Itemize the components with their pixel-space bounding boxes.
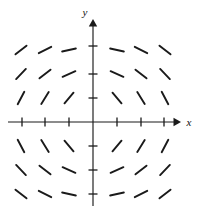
slope-segment (113, 93, 122, 104)
slope-segment (111, 167, 124, 173)
slope-segment (62, 49, 76, 52)
y-axis-label: y (82, 6, 88, 18)
slope-segment (18, 140, 25, 152)
slope-segment (135, 191, 147, 197)
slope-segment (39, 191, 51, 197)
slope-segment (135, 166, 146, 175)
slope-segment (137, 92, 144, 104)
slope-segment (137, 140, 144, 152)
slope-segment (65, 141, 74, 152)
slope-segment (63, 167, 76, 173)
slope-segment (39, 166, 50, 175)
slope-segment (135, 47, 147, 53)
slope-segment (110, 49, 124, 52)
slope-segment (110, 193, 124, 196)
slope-segment (41, 92, 48, 104)
slope-segment (15, 46, 26, 55)
x-axis-arrowhead (174, 118, 182, 126)
slope-field-plot: x y (0, 0, 205, 213)
slope-segment (65, 93, 74, 104)
slope-segment (18, 92, 25, 104)
slope-field-figure: x y (0, 0, 205, 213)
slope-segment (159, 190, 170, 199)
slope-segment (111, 71, 124, 77)
slope-segment (162, 92, 169, 104)
slope-segment (160, 165, 170, 175)
slope-segment (62, 193, 76, 196)
slope-segment (16, 69, 26, 79)
y-axis-arrowhead (89, 19, 97, 27)
x-axis-label: x (186, 116, 192, 128)
slope-segment (162, 140, 169, 152)
slope-segment (15, 190, 26, 199)
axes-group (8, 19, 181, 206)
slope-segment (63, 71, 76, 77)
slope-segment (159, 46, 170, 55)
slope-segment (16, 165, 26, 175)
slope-segment (39, 70, 50, 79)
slope-segment (135, 70, 146, 79)
slope-segment (160, 69, 170, 79)
slope-segment (39, 47, 51, 53)
slope-segment (113, 141, 122, 152)
slope-segment (41, 140, 48, 152)
